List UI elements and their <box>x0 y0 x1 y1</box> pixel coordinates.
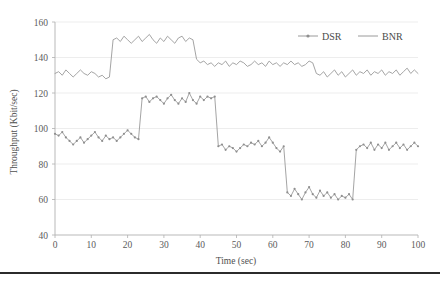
gridlines-group <box>55 22 418 200</box>
series-marker-dsr <box>228 145 230 147</box>
series-marker-dsr <box>177 103 179 105</box>
series-marker-dsr <box>312 193 314 195</box>
x-tick-label-90: 90 <box>377 240 387 250</box>
series-marker-dsr <box>297 193 299 195</box>
series-marker-dsr <box>333 193 335 195</box>
series-marker-dsr <box>170 94 172 96</box>
series-marker-dsr <box>243 143 245 145</box>
series-marker-dsr <box>413 142 415 144</box>
series-marker-dsr <box>337 198 339 200</box>
series-marker-dsr <box>279 150 281 152</box>
series-marker-dsr <box>112 136 114 138</box>
series-marker-dsr <box>261 145 263 147</box>
legend-group: DSRBNR <box>298 31 403 42</box>
series-marker-dsr <box>105 135 107 137</box>
series-marker-dsr <box>362 143 364 145</box>
series-marker-dsr <box>239 147 241 149</box>
x-tick-label-0: 0 <box>53 240 58 250</box>
series-marker-dsr <box>344 197 346 199</box>
series-marker-dsr <box>352 198 354 200</box>
series-marker-dsr <box>370 142 372 144</box>
series-marker-dsr <box>127 129 129 131</box>
y-tick-label-80: 80 <box>39 160 49 170</box>
series-marker-dsr <box>290 195 292 197</box>
series-marker-dsr <box>406 149 408 151</box>
series-marker-dsr <box>174 99 176 101</box>
series-marker-dsr <box>65 136 67 138</box>
series-marker-dsr <box>399 147 401 149</box>
series-marker-dsr <box>366 147 368 149</box>
x-tick-label-40: 40 <box>195 240 205 250</box>
series-marker-dsr <box>159 99 161 101</box>
series-marker-dsr <box>250 142 252 144</box>
series-marker-dsr <box>377 143 379 145</box>
series-marker-dsr <box>137 138 139 140</box>
series-marker-dsr <box>225 149 227 151</box>
series-marker-dsr <box>319 190 321 192</box>
series-marker-dsr <box>141 97 143 99</box>
y-tick-label-60: 60 <box>39 195 49 205</box>
series-marker-dsr <box>83 142 85 144</box>
series-marker-dsr <box>275 147 277 149</box>
series-marker-dsr <box>145 95 147 97</box>
series-marker-dsr <box>417 145 419 147</box>
x-tick-label-60: 60 <box>268 240 278 250</box>
series-marker-dsr <box>246 145 248 147</box>
series-marker-dsr <box>391 145 393 147</box>
series-marker-dsr <box>254 143 256 145</box>
series-marker-dsr <box>68 140 70 142</box>
y-tick-label-140: 140 <box>34 53 49 63</box>
series-marker-dsr <box>272 142 274 144</box>
series-marker-dsr <box>214 95 216 97</box>
series-marker-dsr <box>326 191 328 193</box>
series-marker-dsr <box>381 147 383 149</box>
series-marker-dsr <box>355 149 357 151</box>
legend-label-bnr: BNR <box>382 31 403 42</box>
y-tick-labels-group: 406080100120140160 <box>34 18 49 241</box>
series-marker-dsr <box>76 140 78 142</box>
series-marker-dsr <box>61 131 63 133</box>
series-marker-dsr <box>152 97 154 99</box>
series-marker-dsr <box>283 145 285 147</box>
x-tick-label-80: 80 <box>341 240 351 250</box>
y-tick-label-120: 120 <box>34 89 49 99</box>
series-marker-dsr <box>286 191 288 193</box>
series-marker-dsr <box>232 147 234 149</box>
series-marker-dsr <box>301 198 303 200</box>
series-marker-dsr <box>264 142 266 144</box>
series-line-dsr <box>55 93 418 200</box>
legend-label-dsr: DSR <box>322 31 342 42</box>
series-marker-dsr <box>163 103 165 105</box>
series-marker-dsr <box>217 145 219 147</box>
series-marker-dsr <box>90 135 92 137</box>
series-marker-dsr <box>341 195 343 197</box>
series-marker-dsr <box>101 140 103 142</box>
series-marker-dsr <box>268 136 270 138</box>
throughput-chart: 0102030405060708090100 40608010012014016… <box>0 0 440 281</box>
series-marker-dsr <box>410 145 412 147</box>
series-marker-dsr <box>388 149 390 151</box>
x-tick-label-20: 20 <box>123 240 133 250</box>
series-marker-dsr <box>373 149 375 151</box>
series-marker-dsr <box>134 136 136 138</box>
series-marker-dsr <box>108 138 110 140</box>
series-marker-dsr <box>148 101 150 103</box>
y-tick-label-160: 160 <box>34 18 49 28</box>
series-marker-dsr <box>221 143 223 145</box>
x-tick-labels-group: 0102030405060708090100 <box>53 240 426 250</box>
series-marker-dsr <box>235 150 237 152</box>
y-tick-label-40: 40 <box>39 231 49 241</box>
figure-container: 0102030405060708090100 40608010012014016… <box>0 0 440 281</box>
series-marker-dsr <box>94 131 96 133</box>
series-marker-dsr <box>323 195 325 197</box>
series-marker-dsr <box>402 143 404 145</box>
series-marker-dsr <box>192 99 194 101</box>
series-marker-dsr <box>130 133 132 135</box>
tickmarks-group <box>52 22 418 238</box>
series-marker-dsr <box>72 143 74 145</box>
x-tick-label-50: 50 <box>232 240 242 250</box>
series-marker-dsr <box>97 136 99 138</box>
series-marker-dsr <box>87 138 89 140</box>
series-marker-dsr <box>206 95 208 97</box>
series-marker-dsr <box>293 188 295 190</box>
